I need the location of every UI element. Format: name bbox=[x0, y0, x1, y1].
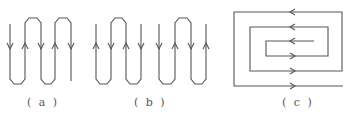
serpentine-path-b1 bbox=[96, 18, 141, 84]
spiral-path-c bbox=[234, 12, 343, 86]
panel-b-diagram bbox=[93, 18, 209, 84]
panel-c-label: ( c ) bbox=[282, 96, 314, 109]
serpentine-path-a bbox=[10, 18, 71, 84]
panel-a-diagram bbox=[7, 18, 74, 84]
panel-a-label: ( a ) bbox=[27, 96, 59, 109]
panel-c-diagram bbox=[234, 9, 343, 89]
panel-b-label: ( b ) bbox=[134, 96, 167, 109]
serpentine-path-b2 bbox=[159, 18, 206, 84]
